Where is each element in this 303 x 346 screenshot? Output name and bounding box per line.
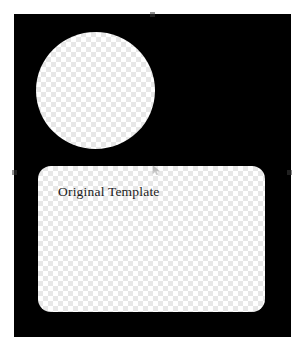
canvas-artboard[interactable]: Original Template (14, 14, 291, 337)
selection-handle-top-center[interactable] (150, 12, 155, 17)
editor-canvas-view: Original Template (0, 0, 303, 346)
shape-circle[interactable] (36, 32, 155, 149)
selection-handle-middle-right[interactable] (287, 170, 292, 175)
pointer-arrow-icon (152, 165, 161, 175)
selection-handle-middle-left[interactable] (12, 170, 17, 175)
shape-label-original-template: Original Template (58, 185, 160, 199)
